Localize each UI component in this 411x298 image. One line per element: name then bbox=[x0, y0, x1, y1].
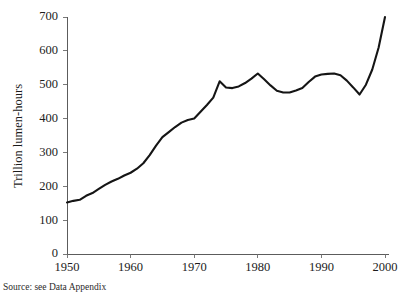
y-tick-label-700: 700 bbox=[39, 9, 58, 23]
y-axis-title: Trillion lumen-hours bbox=[11, 84, 25, 188]
y-tick-label-group: 0100200300400500600700 bbox=[39, 9, 58, 260]
data-line-trillion-lumen-hours bbox=[67, 17, 385, 203]
x-tick-label-1960: 1960 bbox=[118, 260, 143, 274]
x-tick-label-1970: 1970 bbox=[182, 260, 207, 274]
y-tick-group bbox=[63, 17, 67, 254]
y-tick-label-600: 600 bbox=[39, 43, 58, 57]
y-tick-label-0: 0 bbox=[52, 246, 58, 260]
y-tick-label-500: 500 bbox=[39, 77, 58, 91]
y-tick-label-200: 200 bbox=[39, 179, 58, 193]
y-tick-label-100: 100 bbox=[39, 213, 58, 227]
x-tick-group bbox=[67, 254, 385, 258]
x-tick-label-group: 195019601970198019902000 bbox=[55, 260, 398, 274]
figure-container: 0100200300400500600700 19501960197019801… bbox=[0, 0, 411, 298]
x-tick-label-1980: 1980 bbox=[245, 260, 270, 274]
y-tick-label-300: 300 bbox=[39, 145, 58, 159]
x-tick-label-1990: 1990 bbox=[309, 260, 334, 274]
line-chart: 0100200300400500600700 19501960197019801… bbox=[0, 6, 411, 281]
source-note: Source: see Data Appendix bbox=[3, 282, 106, 292]
x-axis: 195019601970198019902000 bbox=[55, 254, 398, 274]
y-tick-label-400: 400 bbox=[39, 111, 58, 125]
y-axis: 0100200300400500600700 bbox=[39, 9, 67, 260]
x-tick-label-1950: 1950 bbox=[55, 260, 80, 274]
plot-area: 0100200300400500600700 19501960197019801… bbox=[0, 6, 411, 281]
x-tick-label-2000: 2000 bbox=[373, 260, 398, 274]
